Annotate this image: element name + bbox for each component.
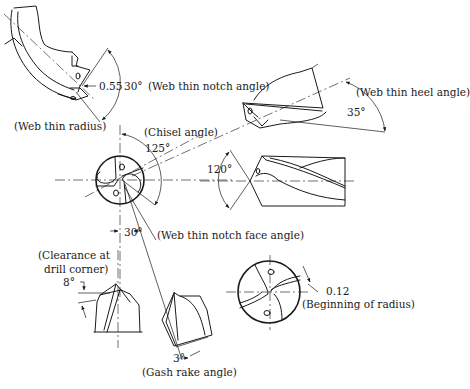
beginning-of-radius-label: (Beginning of radius) [302,298,415,310]
web-thin-radius-label: (Web thin radius) [14,120,106,132]
web-thin-notch-angle-label: (Web thin notch angle) [148,80,269,92]
web-thin-notch-face-angle-label: (Web thin notch face angle) [157,229,304,241]
drill-body-outline [11,10,76,99]
clearance-value: 8° [63,276,75,288]
chisel-angle-value: 125° [145,142,170,154]
gash-rake-value: 3° [173,352,185,364]
clearance-label-line2: drill corner) [44,263,108,275]
top-left-drill-view [4,6,120,122]
bottom-right-end-view [226,255,318,330]
chisel-angle-label: (Chisel angle) [144,126,218,138]
drill-flute-edge [14,6,72,52]
notch-face-angle-value: 30° [124,226,143,238]
point-angle-value: 120° [207,163,232,175]
web-thin-heel-angle-label: (Web thin heel angle) [356,86,470,98]
bottom-middle-drill-view [162,293,212,358]
gash-rake-angle-label: (Gash rake angle) [142,366,237,378]
web-thin-heel-angle-value: 35° [347,106,366,118]
center-end-view [55,125,232,360]
beginning-of-radius-value: 0.12 [326,285,349,297]
web-thin-radius-value: 0.55 [99,80,122,92]
web-thin-notch-angle-value: 30° [124,80,143,92]
clearance-label-line1: (Clearance at [38,249,110,261]
